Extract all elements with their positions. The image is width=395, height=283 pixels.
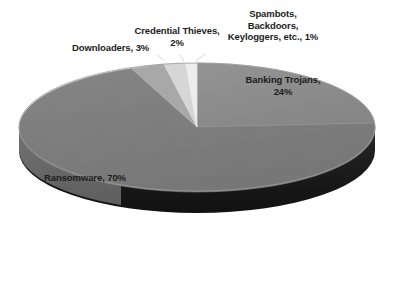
leader-line-spambots xyxy=(196,54,205,61)
pie-chart-graphic xyxy=(0,0,395,283)
slice-banking-trojans[interactable] xyxy=(197,63,375,127)
pie-chart: Downloaders, 3% Credential Thieves, 2% S… xyxy=(0,0,395,283)
leader-line-credential-thieves xyxy=(180,55,184,61)
leader-line-downloaders xyxy=(158,55,163,60)
leader-lines xyxy=(158,54,205,61)
pie-top-surface xyxy=(19,63,375,192)
